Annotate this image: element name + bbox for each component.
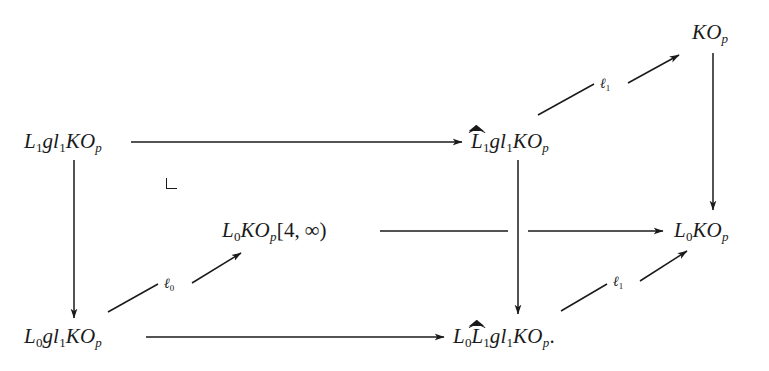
arrow-layer	[0, 0, 769, 371]
node-bottom-left: L0gl1KOp	[24, 326, 102, 349]
arrow-label-lower-right-diagonal: ℓ1	[613, 275, 623, 291]
ell-subscript: 1	[619, 281, 623, 291]
arrow-label-upper-diagonal: ℓ1	[600, 77, 610, 93]
arrow-upper-diagonal-seg-b	[628, 55, 679, 83]
arrow-lower-left-diagonal-seg-a	[108, 284, 158, 312]
pullback-corner-marker	[166, 178, 177, 189]
node-top-left: L1gl1KOp	[24, 131, 102, 154]
arrow-lower-right-diagonal-seg-a	[561, 284, 607, 311]
node-top-right: KOp	[692, 22, 728, 45]
commutative-diagram: L1gl1KOp L1gl1KOp KOp L0KOp[4, ∞) L0KOp …	[0, 0, 769, 371]
arrow-upper-diagonal-seg-a	[538, 84, 594, 115]
node-top-middle: L1gl1KOp	[471, 131, 549, 154]
node-center: L0KOp[4, ∞)	[222, 220, 327, 243]
node-right-middle: L0KOp	[674, 220, 729, 243]
node-bottom-middle: L0L1gl1KOp.	[453, 326, 555, 349]
ell-subscript: 0	[170, 283, 174, 293]
ell-subscript: 1	[606, 83, 610, 93]
arrow-lower-right-diagonal-seg-b	[640, 251, 687, 281]
arrow-lower-left-diagonal-seg-b	[192, 253, 241, 283]
arrow-label-lower-left-diagonal: ℓ0	[164, 277, 174, 293]
